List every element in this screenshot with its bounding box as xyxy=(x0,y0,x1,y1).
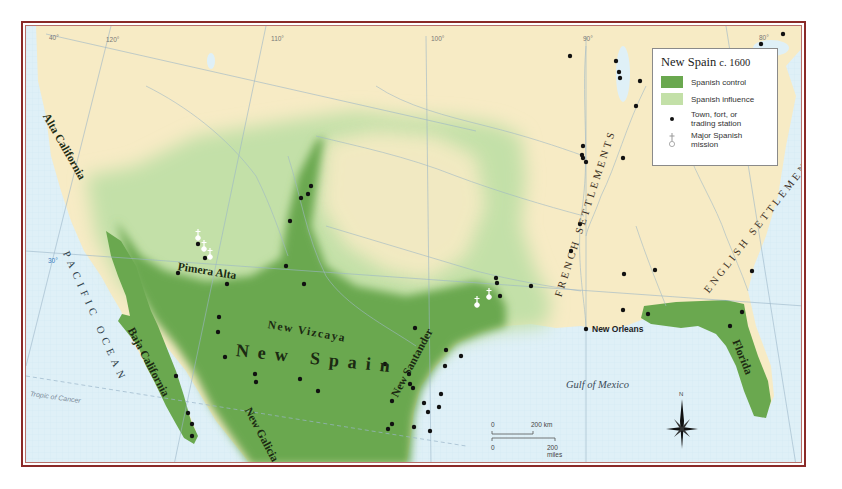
spanish-control-swatch xyxy=(661,76,683,88)
legend-item-mission: Major Spanish mission xyxy=(661,131,769,149)
mission-icon xyxy=(661,132,683,148)
legend-title-text: New Spain xyxy=(661,55,716,69)
legend-item-spanish-influence: Spanish influence xyxy=(661,93,769,105)
legend: New Spain c. 1600 Spanish control Spanis… xyxy=(652,48,778,166)
legend-item-town: Town, fort, or trading station xyxy=(661,110,769,128)
lon-90-label: 90° xyxy=(583,35,593,42)
lon-120-label: 120° xyxy=(106,36,119,43)
lon-80-label: 80° xyxy=(759,34,769,41)
label-gulf-of-mexico: Gulf of Mexico xyxy=(566,379,629,390)
legend-title: New Spain c. 1600 xyxy=(661,55,769,70)
lat-40-label: 40° xyxy=(49,34,59,41)
lon-110-label: 110° xyxy=(271,35,284,42)
map-canvas: 40° 120° 110° 100° 90° 80° 30° Alta Cali… xyxy=(25,25,802,463)
compass-rose-icon: N xyxy=(666,393,706,453)
spanish-influence-swatch xyxy=(661,93,683,105)
legend-title-date: c. 1600 xyxy=(719,57,750,68)
scale-bar: 0 200 km 0 200 miles xyxy=(491,421,571,455)
legend-item-spanish-control: Spanish control xyxy=(661,76,769,88)
town-dot-icon xyxy=(661,116,683,122)
lon-100-label: 100° xyxy=(431,35,444,42)
lat-30-label: 30° xyxy=(48,257,58,264)
map-frame: 40° 120° 110° 100° 90° 80° 30° Alta Cali… xyxy=(21,21,806,467)
label-new-orleans: New Orleans xyxy=(592,324,644,334)
